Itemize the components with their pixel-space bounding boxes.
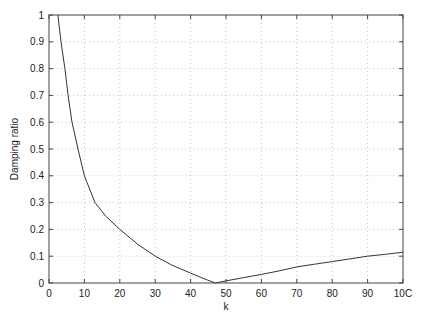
- x-tick-label: 50: [220, 288, 232, 299]
- y-tick-label: 0: [38, 278, 44, 289]
- x-tick-label: 10C: [394, 288, 412, 299]
- x-tick-label: 70: [291, 288, 303, 299]
- x-tick-label: 60: [256, 288, 268, 299]
- grid-lines: [49, 15, 403, 283]
- y-tick-label: 0.1: [30, 251, 44, 262]
- y-tick-label: 1: [38, 10, 44, 21]
- x-tick-label: 40: [185, 288, 197, 299]
- damping-ratio-chart: 010203040506070809010C 00.10.20.30.40.50…: [0, 0, 422, 322]
- y-tick-label: 0.4: [30, 170, 44, 181]
- x-axis-label: k: [224, 301, 230, 312]
- x-tick-label: 30: [150, 288, 162, 299]
- x-tick-label: 10: [79, 288, 91, 299]
- x-tick-label: 90: [362, 288, 374, 299]
- y-tick-label: 0.2: [30, 224, 44, 235]
- y-tick-label: 0.7: [30, 90, 44, 101]
- y-tick-labels: 00.10.20.30.40.50.60.70.80.91: [30, 10, 44, 289]
- y-tick-label: 0.6: [30, 117, 44, 128]
- y-tick-label: 0.9: [30, 36, 44, 47]
- x-tick-label: 0: [46, 288, 52, 299]
- x-tick-labels: 010203040506070809010C: [46, 288, 412, 299]
- y-tick-label: 0.3: [30, 197, 44, 208]
- y-tick-label: 0.8: [30, 63, 44, 74]
- y-axis-label: Damping ratio: [9, 117, 20, 180]
- x-tick-label: 80: [327, 288, 339, 299]
- y-tick-label: 0.5: [30, 144, 44, 155]
- x-tick-label: 20: [114, 288, 126, 299]
